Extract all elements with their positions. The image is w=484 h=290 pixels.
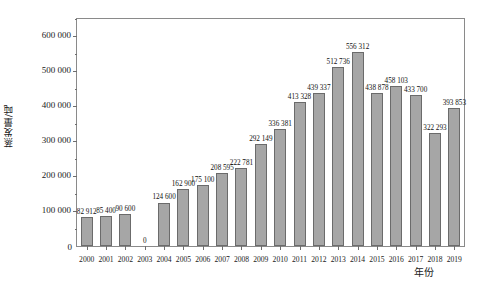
x-axis-tick-label: 2013 — [331, 255, 346, 264]
y-axis-minor-tick — [75, 194, 77, 195]
x-axis-tick — [164, 246, 165, 250]
bar-value-label: 393 853 — [443, 99, 466, 107]
bar — [255, 144, 267, 246]
bar — [332, 67, 344, 246]
x-axis-tick — [416, 246, 417, 250]
bar — [235, 168, 247, 246]
x-axis-tick — [377, 246, 378, 250]
bar — [81, 217, 93, 246]
x-axis-tick — [145, 246, 146, 250]
bar — [100, 216, 112, 246]
y-axis-minor-tick — [75, 229, 77, 230]
y-axis-tick — [73, 141, 77, 142]
x-axis-tick — [87, 246, 88, 250]
bar-value-label: 322 293 — [423, 124, 446, 132]
x-axis-tick — [358, 246, 359, 250]
x-axis-tick-label: 2000 — [79, 255, 94, 264]
x-axis-tick-label: 2014 — [350, 255, 365, 264]
x-axis-tick — [125, 246, 126, 250]
x-axis-tick — [261, 246, 262, 250]
bar — [390, 86, 402, 246]
plot-inner: 100 000200 000300 000400 000500 000600 0… — [77, 19, 464, 246]
x-axis-tick-label: 2003 — [137, 255, 152, 264]
x-axis-tick-label: 2008 — [234, 255, 249, 264]
x-axis-tick-label: 2005 — [176, 255, 191, 264]
x-axis-tick — [319, 246, 320, 250]
bar — [429, 133, 441, 246]
x-axis-tick — [454, 246, 455, 250]
chart-figure: 蒸发量/吨 0 100 000200 000300 000400 000500 … — [0, 0, 484, 290]
bar-value-label: 0 — [143, 237, 147, 245]
bar-value-label: 512 736 — [327, 58, 350, 66]
x-axis-tick — [338, 246, 339, 250]
x-axis-tick-label: 2019 — [447, 255, 462, 264]
bar — [294, 102, 306, 246]
y-axis-tick-label: 600 000 — [11, 30, 71, 40]
x-axis-tick-label: 2010 — [273, 255, 288, 264]
bar — [119, 214, 131, 246]
x-axis-tick — [183, 246, 184, 250]
bar — [352, 52, 364, 246]
y-axis-tick-label: 200 000 — [11, 170, 71, 180]
bar-value-label: 124 600 — [152, 193, 175, 201]
y-axis-tick-label: 400 000 — [11, 100, 71, 110]
bar — [313, 93, 325, 246]
y-axis-tick-label: 500 000 — [11, 65, 71, 75]
bar-value-label: 413 328 — [288, 93, 311, 101]
x-axis-tick — [435, 246, 436, 250]
x-axis-tick-label: 2001 — [98, 255, 113, 264]
x-axis-tick — [300, 246, 301, 250]
x-axis-tick-label: 2012 — [311, 255, 326, 264]
bar — [371, 93, 383, 246]
y-axis-minor-tick — [75, 19, 77, 20]
x-axis-tick-label: 2009 — [253, 255, 268, 264]
bar-value-label: 292 149 — [249, 135, 272, 143]
x-axis-tick — [241, 246, 242, 250]
x-axis-tick-label: 2017 — [408, 255, 423, 264]
y-axis-tick — [73, 176, 77, 177]
y-axis-minor-tick — [75, 159, 77, 160]
bar-value-label: 433 700 — [404, 86, 427, 94]
y-axis-tick — [73, 106, 77, 107]
bar — [410, 95, 422, 246]
x-axis-tick — [106, 246, 107, 250]
x-axis-tick — [222, 246, 223, 250]
x-axis-tick-label: 2015 — [369, 255, 384, 264]
bar — [448, 108, 460, 246]
x-axis-tick — [280, 246, 281, 250]
x-axis-tick-label: 2011 — [292, 255, 307, 264]
x-axis-tick-label: 2004 — [156, 255, 171, 264]
bar-value-label: 336 381 — [268, 120, 291, 128]
y-axis-origin-label: 0 — [60, 242, 72, 252]
y-axis-tick — [73, 36, 77, 37]
y-axis-tick — [73, 71, 77, 72]
bar-value-label: 82 912 — [77, 208, 97, 216]
x-axis-tick-label: 2018 — [427, 255, 442, 264]
bar — [274, 129, 286, 246]
bar-value-label: 556 312 — [346, 43, 369, 51]
y-axis-tick-label: 100 000 — [11, 205, 71, 215]
bar-value-label: 90 600 — [115, 205, 135, 213]
y-axis-minor-tick — [75, 54, 77, 55]
y-axis-minor-tick — [75, 124, 77, 125]
y-axis-tick-label: 300 000 — [11, 135, 71, 145]
bar — [197, 185, 209, 246]
plot-area: 100 000200 000300 000400 000500 000600 0… — [76, 18, 465, 247]
x-axis-tick-label: 2007 — [215, 255, 230, 264]
bar-value-label: 439 337 — [307, 84, 330, 92]
x-axis-title: 年份 — [414, 264, 434, 279]
bar-value-label: 222 781 — [230, 159, 253, 167]
x-axis-tick-label: 2016 — [389, 255, 404, 264]
x-axis-tick — [396, 246, 397, 250]
bar — [216, 173, 228, 246]
x-axis-tick-label: 2006 — [195, 255, 210, 264]
x-axis-tick — [203, 246, 204, 250]
bar-value-label: 175 100 — [191, 176, 214, 184]
bar-value-label: 458 103 — [385, 77, 408, 85]
y-axis-minor-tick — [75, 89, 77, 90]
x-axis-tick-label: 2002 — [118, 255, 133, 264]
bar — [158, 203, 170, 247]
bar-value-label: 85 400 — [96, 207, 116, 215]
bar — [177, 189, 189, 246]
